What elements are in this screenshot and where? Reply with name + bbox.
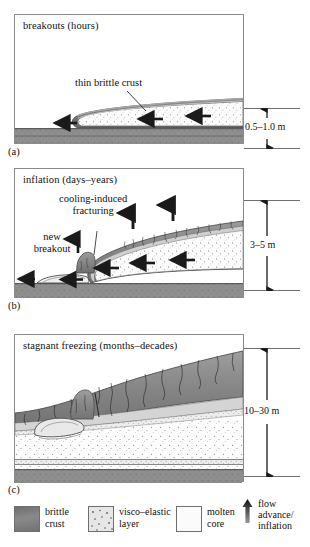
dimension-b: 3–5 m <box>244 200 310 292</box>
panel-a-title: breakouts (hours) <box>23 20 98 31</box>
legend-label-visco-elastic-line2: layer <box>119 518 139 529</box>
legend-swatch-visco-elastic-layer <box>88 506 114 532</box>
dimension-a: 0.5–1.0 m <box>244 108 310 150</box>
stipple-pattern-icon <box>89 507 114 532</box>
legend-label-brittle-crust-line2: crust <box>45 518 64 529</box>
legend: brittle crust visco–elastic layer <box>14 500 304 544</box>
legend-label-molten-core-line1: molten <box>207 506 235 517</box>
legend-label-flow-line2: advance/ <box>258 509 294 520</box>
dimension-a-label: 0.5–1.0 m <box>245 121 285 132</box>
dimension-c-label: 10–30 m <box>244 405 279 416</box>
panel-a-letter: (a) <box>8 146 20 157</box>
legend-swatch-brittle-crust <box>14 506 40 532</box>
tumulus-b <box>77 252 95 273</box>
dimension-b-label: 3–5 m <box>250 239 275 250</box>
leader-line-cooling-fracturing <box>94 231 97 255</box>
annotation-new-breakout-line1: new <box>43 231 61 242</box>
panel-b-inflation: inflation (days–years) cooling-induced f… <box>14 168 244 298</box>
annotation-cooling-line2: fracturing <box>72 205 113 216</box>
legend-item-brittle-crust: brittle crust <box>14 506 69 532</box>
legend-label-flow-line1: flow <box>258 498 276 509</box>
dimension-c: 10–30 m <box>244 348 310 478</box>
panel-b-title: inflation (days–years) <box>23 174 117 185</box>
legend-swatch-molten-core <box>176 506 202 532</box>
annotation-thin-brittle-crust: thin brittle crust <box>75 77 142 88</box>
panel-a-breakouts: breakouts (hours) thin brittle crust <box>14 14 244 144</box>
annotation-new-breakout: new breakout <box>21 231 83 255</box>
frozen-tumulus-c <box>71 390 94 419</box>
legend-item-molten-core: molten core <box>176 506 235 532</box>
legend-item-flow-advance: flow advance/ inflation <box>242 498 294 531</box>
legend-label-molten-core-line2: core <box>207 518 224 529</box>
legend-label-brittle-crust-line1: brittle <box>45 506 69 517</box>
annotation-new-breakout-line2: breakout <box>34 243 71 254</box>
panel-c-bottom-rule <box>14 482 242 483</box>
panel-c-stagnant-freezing: stagnant freezing (months–decades) <box>14 334 244 482</box>
annotation-cooling-line1: cooling-induced <box>59 193 127 204</box>
legend-label-flow-line3: inflation <box>258 520 292 531</box>
panel-c-title: stagnant freezing (months–decades) <box>23 340 177 351</box>
panel-b-letter: (b) <box>8 300 20 311</box>
legend-item-visco-elastic-layer: visco–elastic layer <box>88 506 171 532</box>
legend-label-visco-elastic-line1: visco–elastic <box>119 506 171 517</box>
annotation-cooling-induced-fracturing: cooling-induced fracturing <box>59 193 127 217</box>
up-arrow-icon <box>242 498 253 524</box>
panel-c-illustration <box>15 335 243 481</box>
panel-c-letter: (c) <box>8 484 20 495</box>
